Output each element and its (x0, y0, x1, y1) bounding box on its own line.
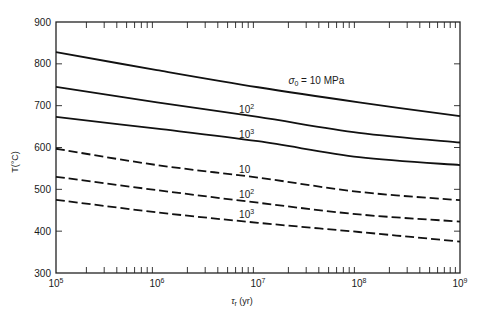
x-tick-labels: 105106107108109 (48, 277, 467, 289)
x-tick-label: 107 (250, 277, 265, 289)
y-tick-label: 900 (34, 17, 51, 28)
x-axis-unit: (yr) (237, 296, 253, 306)
dashed-curve (56, 149, 460, 200)
dashed-curve (56, 177, 460, 222)
x-tick-label: 106 (149, 277, 164, 289)
solid-curve (56, 117, 460, 165)
y-tick-label: 600 (34, 142, 51, 153)
y-tick-label: 700 (34, 100, 51, 111)
curve-label: 102 (239, 188, 254, 200)
y-tick-label: 400 (34, 226, 51, 237)
dashed-curve (56, 200, 460, 242)
curve-label: 10 (239, 164, 251, 175)
solid-curve (56, 52, 460, 116)
curve-label: 102 (239, 103, 254, 115)
x-tick-label: 108 (351, 277, 366, 289)
y-tick-label: 300 (34, 268, 51, 279)
curve-label: 103 (239, 128, 254, 140)
curve-label: σ0 = 10 MPa (288, 75, 344, 87)
y-tick-label: 500 (34, 184, 51, 195)
y-tick-label: 800 (34, 58, 51, 69)
curve-labels: σ0 = 10 MPa10210310102103 (239, 75, 345, 220)
curves (56, 52, 460, 242)
solid-curve (56, 87, 460, 143)
x-tick-label: 109 (452, 277, 467, 289)
curve-label: 103 (239, 208, 254, 220)
y-axis-title: T(°C) (10, 151, 20, 173)
x-axis-title: τr (yr) (231, 296, 253, 307)
x-tick-label: 105 (48, 277, 63, 289)
y-tick-labels: 300400500600700800900 (34, 17, 51, 279)
creep-rupture-chart: 300400500600700800900 105106107108109 σ0… (0, 0, 484, 322)
